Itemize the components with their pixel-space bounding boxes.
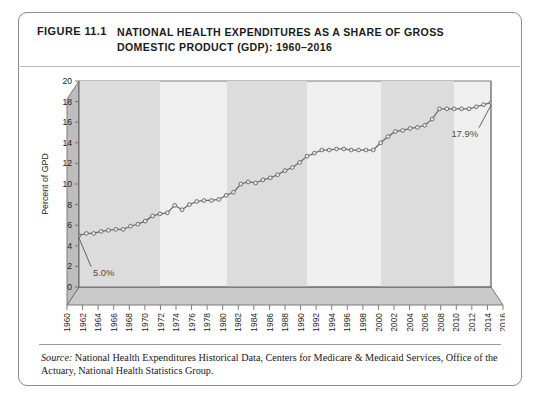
data-point	[401, 129, 405, 133]
x-tick-label: 1976	[187, 313, 197, 332]
data-point	[335, 147, 339, 151]
x-axis: 1960196219641966196819701972197419761978…	[62, 305, 505, 332]
x-tick-label: 1970	[140, 313, 150, 332]
data-point	[210, 199, 214, 203]
x-tick-label: 1994	[327, 313, 337, 332]
shaded-bands	[79, 81, 454, 287]
data-point	[393, 130, 397, 134]
data-point	[416, 125, 420, 129]
data-point	[445, 107, 449, 111]
data-point	[151, 214, 155, 218]
x-tick-label: 1962	[78, 313, 88, 332]
figure-header: FIGURE 11.1 NATIONAL HEALTH EXPENDITURES…	[19, 13, 521, 65]
data-point	[452, 107, 456, 111]
source-label: Source:	[41, 352, 72, 363]
data-point	[349, 148, 353, 152]
x-tick-label: 1990	[296, 313, 306, 332]
x-tick-label: 1964	[93, 313, 103, 332]
data-point	[254, 181, 258, 185]
figure-title: NATIONAL HEALTH EXPENDITURES AS A SHARE …	[117, 25, 505, 55]
data-point	[224, 193, 228, 197]
data-point	[261, 178, 265, 182]
x-tick-label: 1966	[109, 313, 119, 332]
x-tick-label: 2016	[498, 313, 505, 332]
data-point	[180, 208, 184, 212]
data-point	[313, 151, 317, 155]
data-point	[276, 173, 280, 177]
data-point	[430, 117, 434, 121]
data-point	[158, 212, 162, 216]
y-tick-label: 6	[67, 220, 72, 230]
data-point	[298, 160, 302, 164]
x-tick-label: 1972	[156, 313, 166, 332]
data-point	[327, 148, 331, 152]
data-point	[114, 227, 118, 231]
data-point	[268, 176, 272, 180]
x-tick-label: 1968	[124, 313, 134, 332]
x-tick-label: 1974	[171, 313, 181, 332]
chart-plot-area: 02468101214161820 1960196219641966196819…	[37, 73, 505, 335]
y-tick-label: 4	[67, 241, 72, 251]
data-point	[202, 199, 206, 203]
data-point	[143, 219, 147, 223]
shaded-band	[79, 81, 160, 287]
figure-card: FIGURE 11.1 NATIONAL HEALTH EXPENDITURES…	[18, 12, 522, 386]
y-tick-label: 12	[62, 158, 72, 168]
data-point	[195, 200, 199, 204]
data-point	[165, 211, 169, 215]
data-point	[379, 141, 383, 145]
x-tick-label: 2002	[389, 313, 399, 332]
y-tick-label: 16	[62, 117, 72, 127]
plot-floor	[67, 287, 503, 305]
data-point	[283, 169, 287, 173]
x-tick-label: 1986	[265, 313, 275, 332]
x-tick-label: 1980	[218, 313, 228, 332]
data-point	[423, 123, 427, 127]
x-tick-label: 2006	[420, 313, 430, 332]
data-point	[173, 203, 177, 207]
annotation-label: 17.9%	[451, 128, 478, 139]
data-point	[92, 232, 96, 236]
data-point	[232, 190, 236, 194]
y-tick-label: 14	[62, 138, 72, 148]
x-tick-label: 1984	[249, 313, 259, 332]
shaded-band	[381, 81, 454, 287]
data-point	[129, 224, 133, 228]
x-tick-label: 1996	[342, 313, 352, 332]
figure-number: FIGURE 11.1	[37, 25, 107, 37]
data-point	[438, 107, 442, 111]
x-tick-label: 2000	[374, 313, 384, 332]
x-tick-label: 1960	[62, 313, 72, 332]
source-text: National Health Expenditures Historical …	[41, 352, 498, 376]
y-axis-title: Percent of GPD	[40, 153, 50, 215]
data-point	[408, 126, 412, 130]
data-point	[460, 107, 464, 111]
y-tick-label: 8	[67, 200, 72, 210]
x-tick-label: 1998	[358, 313, 368, 332]
data-point	[320, 148, 324, 152]
y-tick-label: 10	[62, 179, 72, 189]
data-point	[474, 105, 478, 109]
x-tick-label: 1988	[280, 313, 290, 332]
data-point	[121, 227, 125, 231]
data-point	[386, 135, 390, 139]
x-tick-label: 2010	[451, 313, 461, 332]
data-point	[290, 166, 294, 170]
data-point	[136, 222, 140, 226]
header-divider	[20, 66, 520, 67]
data-point	[342, 147, 346, 151]
data-point	[246, 180, 250, 184]
data-point	[84, 232, 88, 236]
data-point	[239, 182, 243, 186]
data-point	[99, 229, 103, 233]
x-tick-label: 2004	[405, 313, 415, 332]
data-point	[364, 148, 368, 152]
annotation-label: 5.0%	[93, 267, 114, 278]
y-tick-label: 20	[62, 76, 72, 86]
line-chart: 02468101214161820 1960196219641966196819…	[37, 73, 505, 335]
y-tick-label: 18	[62, 97, 72, 107]
x-tick-label: 1978	[202, 313, 212, 332]
data-point	[305, 154, 309, 158]
data-point	[187, 203, 191, 207]
x-tick-label: 1982	[233, 313, 243, 332]
